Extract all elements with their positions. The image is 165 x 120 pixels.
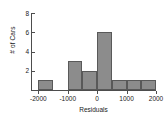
histogram-bar: [112, 80, 127, 90]
x-axis-tick-mark: [97, 91, 98, 94]
plot-area: [31, 13, 156, 90]
x-axis-tick-label: -1000: [55, 95, 81, 103]
histogram-bar: [127, 80, 142, 90]
y-axis-tick-label: 8: [17, 10, 29, 17]
y-axis-tick-label: 6: [17, 29, 29, 36]
x-axis-tick-mark: [156, 91, 157, 94]
histogram-bar: [97, 32, 112, 90]
x-axis-tick-label: 2000: [143, 95, 165, 103]
x-axis-tick-mark: [127, 91, 128, 94]
histogram-chart: # of Cars 2468 -2000-1000010002000 Resid…: [0, 0, 165, 120]
x-axis-tick-label: -2000: [25, 95, 51, 103]
histogram-bar: [82, 71, 97, 90]
x-axis-label: Residuals: [31, 106, 156, 114]
x-axis-tick-label: 1000: [114, 95, 140, 103]
histogram-bar: [38, 80, 53, 90]
x-axis-tick-label: 0: [84, 95, 110, 103]
y-axis-tick-label: 2: [17, 67, 29, 74]
x-axis-tick-mark: [38, 91, 39, 94]
histogram-bar: [68, 61, 83, 90]
x-axis-line: [31, 90, 156, 91]
histogram-bar: [141, 80, 156, 90]
y-axis-tick-label: 4: [17, 48, 29, 55]
x-axis-tick-mark: [68, 91, 69, 94]
